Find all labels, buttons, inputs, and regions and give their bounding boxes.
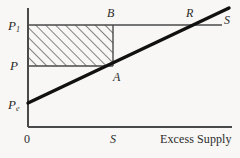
axis-label-price-ceiling: P1 [8, 19, 20, 32]
origin-label: 0 [24, 133, 30, 145]
x-axis-title: Excess Supply [160, 133, 232, 145]
excess-supply-diagram: P1 P Pe B R S A 0 S Excess Supply [0, 0, 240, 158]
axis-label-price: P [10, 59, 18, 72]
x-axis-tick-label-s: S [110, 133, 116, 145]
point-label-a: A [113, 71, 120, 83]
point-label-b: B [107, 7, 114, 19]
point-label-r: R [186, 7, 193, 19]
hatched-region [28, 25, 113, 66]
supply-curve-label: S [224, 14, 230, 26]
axis-label-equilibrium-price: Pe [8, 98, 20, 111]
